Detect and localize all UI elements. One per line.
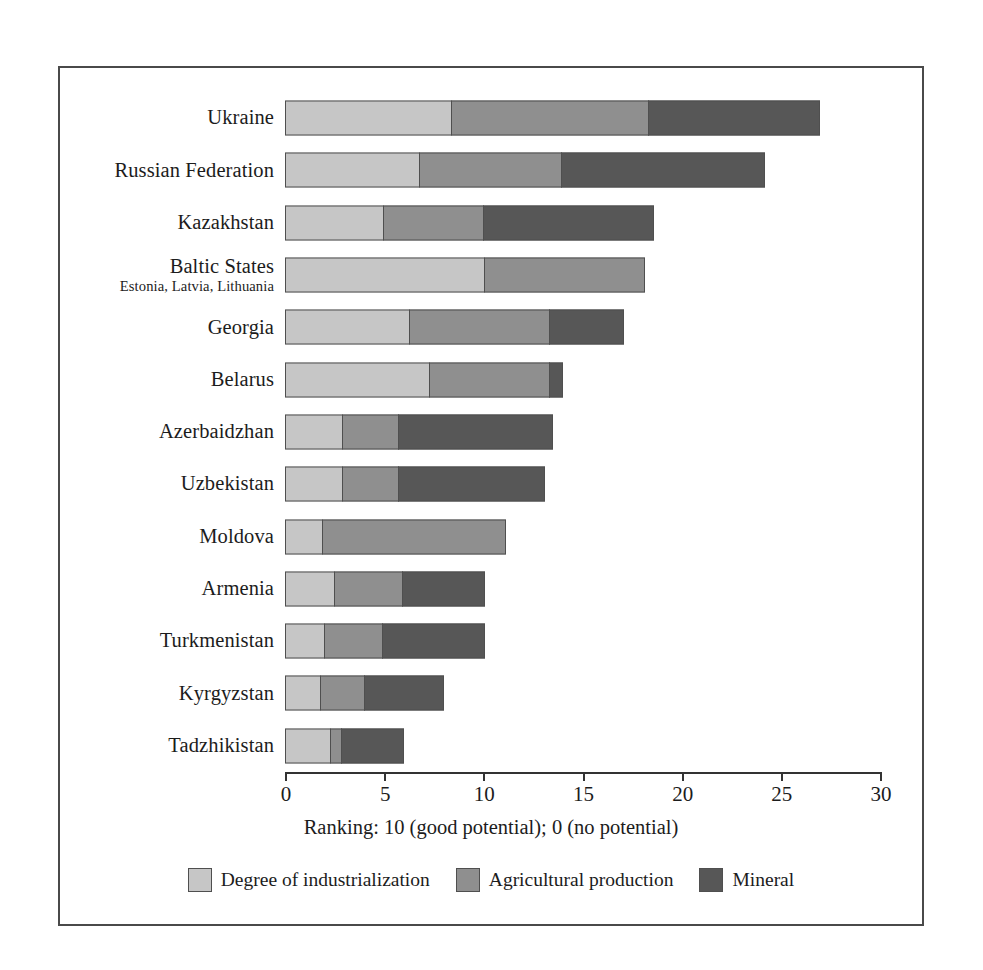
bar-segment[interactable] bbox=[561, 153, 765, 188]
stacked-bar[interactable] bbox=[285, 624, 485, 659]
legend-item[interactable]: Agricultural production bbox=[456, 868, 674, 892]
bar-row: Azerbaidzhan bbox=[78, 406, 906, 458]
stacked-bar[interactable] bbox=[285, 101, 820, 136]
bar-track bbox=[285, 667, 906, 719]
stacked-bar[interactable] bbox=[285, 362, 563, 397]
bar-segment[interactable] bbox=[398, 414, 553, 449]
stacked-bar[interactable] bbox=[285, 205, 654, 240]
bar-segment[interactable] bbox=[285, 676, 321, 711]
bar-segment[interactable] bbox=[324, 624, 384, 659]
x-tick bbox=[880, 772, 882, 781]
legend-swatch bbox=[699, 868, 723, 892]
bar-segment[interactable] bbox=[285, 310, 410, 345]
bar-track bbox=[285, 615, 906, 667]
bar-segment[interactable] bbox=[364, 676, 443, 711]
category-label: Armenia bbox=[78, 578, 285, 600]
bar-segment[interactable] bbox=[285, 571, 335, 606]
chart-figure: UkraineRussian FederationKazakhstanBalti… bbox=[58, 66, 924, 926]
bar-row: Tadzhikistan bbox=[78, 720, 906, 772]
category-sublabel: Estonia, Latvia, Lithuania bbox=[78, 279, 274, 294]
legend-label: Mineral bbox=[732, 869, 794, 891]
category-label: Russian Federation bbox=[78, 160, 285, 182]
bar-track bbox=[285, 510, 906, 562]
bar-rows: UkraineRussian FederationKazakhstanBalti… bbox=[78, 92, 906, 772]
category-label: Kazakhstan bbox=[78, 212, 285, 234]
bar-row: Kyrgyzstan bbox=[78, 667, 906, 719]
bar-track bbox=[285, 197, 906, 249]
bar-row: Russian Federation bbox=[78, 144, 906, 196]
legend-item[interactable]: Mineral bbox=[699, 868, 794, 892]
x-tick bbox=[682, 772, 684, 781]
bar-row: Moldova bbox=[78, 510, 906, 562]
bar-row: Baltic StatesEstonia, Latvia, Lithuania bbox=[78, 249, 906, 301]
bar-track bbox=[285, 720, 906, 772]
legend-label: Degree of industrialization bbox=[221, 869, 430, 891]
bar-segment[interactable] bbox=[334, 571, 403, 606]
bar-segment[interactable] bbox=[285, 519, 323, 554]
x-tick-label: 5 bbox=[380, 782, 391, 807]
bar-segment[interactable] bbox=[320, 676, 366, 711]
x-tick bbox=[384, 772, 386, 781]
bar-segment[interactable] bbox=[322, 519, 506, 554]
bar-track bbox=[285, 249, 906, 301]
bar-track bbox=[285, 301, 906, 353]
bar-track bbox=[285, 563, 906, 615]
bar-segment[interactable] bbox=[419, 153, 562, 188]
x-axis-title: Ranking: 10 (good potential); 0 (no pote… bbox=[60, 816, 922, 839]
bar-segment[interactable] bbox=[285, 205, 384, 240]
bar-row: Ukraine bbox=[78, 92, 906, 144]
stacked-bar[interactable] bbox=[285, 310, 624, 345]
bar-segment[interactable] bbox=[342, 467, 400, 502]
x-tick bbox=[781, 772, 783, 781]
stacked-bar[interactable] bbox=[285, 728, 404, 763]
bar-segment[interactable] bbox=[382, 624, 485, 659]
x-tick-label: 15 bbox=[573, 782, 594, 807]
bar-row: Armenia bbox=[78, 563, 906, 615]
bar-segment[interactable] bbox=[285, 624, 325, 659]
bar-segment[interactable] bbox=[429, 362, 550, 397]
bar-segment[interactable] bbox=[285, 467, 343, 502]
bar-row: Belarus bbox=[78, 353, 906, 405]
bar-track bbox=[285, 353, 906, 405]
bar-segment[interactable] bbox=[285, 101, 452, 136]
bar-segment[interactable] bbox=[402, 571, 485, 606]
bar-segment[interactable] bbox=[549, 310, 624, 345]
stacked-bar[interactable] bbox=[285, 571, 485, 606]
bar-row: Turkmenistan bbox=[78, 615, 906, 667]
category-label: Turkmenistan bbox=[78, 630, 285, 652]
bar-segment[interactable] bbox=[484, 258, 645, 293]
bar-track bbox=[285, 92, 906, 144]
bar-segment[interactable] bbox=[342, 414, 400, 449]
x-tick bbox=[583, 772, 585, 781]
bar-segment[interactable] bbox=[398, 467, 545, 502]
bar-segment[interactable] bbox=[409, 310, 550, 345]
bar-segment[interactable] bbox=[285, 414, 343, 449]
bar-track bbox=[285, 458, 906, 510]
bar-segment[interactable] bbox=[285, 362, 430, 397]
bar-segment[interactable] bbox=[383, 205, 484, 240]
x-tick bbox=[483, 772, 485, 781]
x-tick-label: 10 bbox=[474, 782, 495, 807]
stacked-bar[interactable] bbox=[285, 519, 506, 554]
bar-segment[interactable] bbox=[451, 101, 649, 136]
category-label: Azerbaidzhan bbox=[78, 421, 285, 443]
legend-label: Agricultural production bbox=[489, 869, 674, 891]
bar-segment[interactable] bbox=[648, 101, 821, 136]
bar-segment[interactable] bbox=[285, 153, 420, 188]
bar-segment[interactable] bbox=[483, 205, 654, 240]
stacked-bar[interactable] bbox=[285, 414, 553, 449]
bar-segment[interactable] bbox=[341, 728, 404, 763]
bar-track bbox=[285, 406, 906, 458]
stacked-bar[interactable] bbox=[285, 467, 545, 502]
bar-segment[interactable] bbox=[285, 728, 331, 763]
category-label: Georgia bbox=[78, 317, 285, 339]
stacked-bar[interactable] bbox=[285, 258, 645, 293]
x-tick-label: 30 bbox=[871, 782, 892, 807]
legend-item[interactable]: Degree of industrialization bbox=[188, 868, 430, 892]
stacked-bar[interactable] bbox=[285, 153, 765, 188]
bar-segment[interactable] bbox=[549, 362, 563, 397]
category-label: Tadzhikistan bbox=[78, 735, 285, 757]
stacked-bar[interactable] bbox=[285, 676, 444, 711]
chart-legend: Degree of industrializationAgricultural … bbox=[60, 868, 922, 892]
bar-segment[interactable] bbox=[285, 258, 485, 293]
